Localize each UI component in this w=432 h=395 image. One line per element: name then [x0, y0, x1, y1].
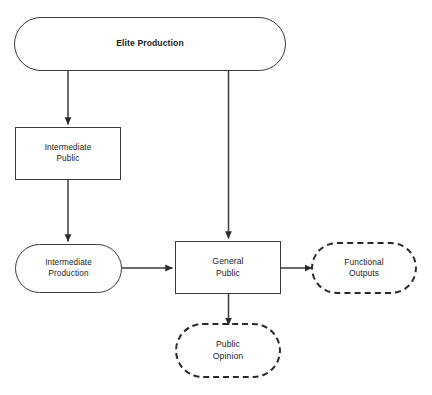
node-public-opinion-label: Public Opinion: [213, 339, 243, 362]
node-intermediate-production-label: Intermediate Production: [45, 258, 92, 280]
node-intermediate-public-label: Intermediate Public: [45, 143, 92, 165]
node-intermediate-production: Intermediate Production: [15, 244, 122, 293]
node-general-public: General Public: [175, 241, 281, 294]
node-elite-production-label: Elite Production: [116, 38, 184, 49]
node-elite-production: Elite Production: [14, 17, 286, 71]
node-public-opinion: Public Opinion: [175, 323, 281, 378]
node-general-public-label: General Public: [212, 256, 243, 279]
node-functional-outputs: Functional Outputs: [311, 242, 417, 294]
node-functional-outputs-label: Functional Outputs: [344, 257, 384, 279]
node-intermediate-public: Intermediate Public: [15, 127, 121, 180]
flow-diagram-canvas: Elite Production Intermediate Public Int…: [0, 0, 432, 395]
